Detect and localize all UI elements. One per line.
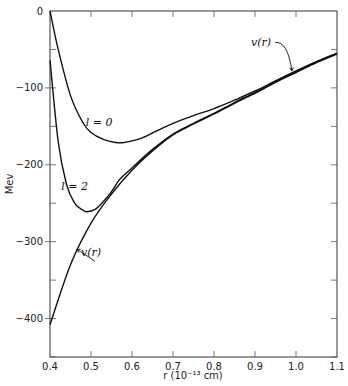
curves bbox=[50, 11, 337, 325]
label-v-r-bottom: v(r) bbox=[81, 246, 101, 259]
annotation-arrow bbox=[275, 42, 292, 70]
x-tick-label: 0.6 bbox=[124, 361, 140, 372]
curve-l-2 bbox=[50, 53, 337, 211]
label-l-0: l = 0 bbox=[86, 116, 113, 129]
plot-border bbox=[50, 11, 337, 357]
curve-v-r bbox=[50, 54, 337, 325]
x-tick-label: 0.9 bbox=[247, 361, 263, 372]
label-l-2: l = 2 bbox=[61, 180, 88, 193]
x-tick-label: 1.0 bbox=[288, 361, 304, 372]
y-tick-label: −100 bbox=[16, 82, 43, 93]
potential-chart: 0.40.50.60.70.80.91.01.1 0−100−200−300−4… bbox=[0, 0, 348, 386]
x-tick-label: 0.5 bbox=[83, 361, 99, 372]
label-v-r-top: v(r) bbox=[251, 36, 271, 49]
x-tick-label: 1.1 bbox=[329, 361, 345, 372]
x-axis-label: r (10⁻¹³ cm) bbox=[163, 370, 223, 381]
annotations: l = 0l = 2v(r)v(r) bbox=[61, 36, 293, 262]
y-tick-label: −300 bbox=[16, 236, 43, 247]
y-tick-label: −200 bbox=[16, 159, 43, 170]
x-tick-label: 0.4 bbox=[42, 361, 58, 372]
y-tick-label: −400 bbox=[16, 313, 43, 324]
y-axis-label: Mev bbox=[4, 174, 15, 195]
y-tick-label: 0 bbox=[37, 6, 43, 17]
plot-frame bbox=[50, 11, 337, 357]
